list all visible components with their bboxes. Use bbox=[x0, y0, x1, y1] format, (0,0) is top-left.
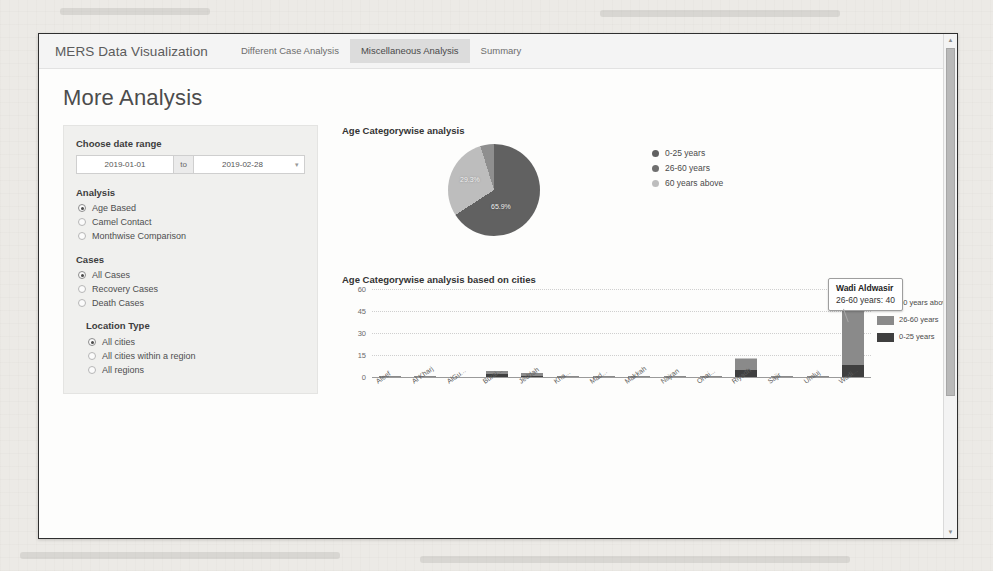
y-axis-tick: 30 bbox=[358, 329, 366, 338]
app-brand[interactable]: MERS Data Visualization bbox=[55, 44, 230, 59]
legend-label: 60 years above bbox=[665, 178, 723, 188]
pie-slice-label-0-25: 65.9% bbox=[491, 203, 511, 210]
radio-dot-icon[interactable] bbox=[78, 232, 86, 240]
page-title: More Analysis bbox=[63, 85, 957, 111]
pie-legend-item-60-above[interactable]: 60 years above bbox=[652, 178, 723, 188]
pie-graphic[interactable] bbox=[448, 144, 540, 236]
tooltip-title: Wadi Aldwasir bbox=[836, 283, 895, 293]
radio-age-based[interactable]: Age Based bbox=[78, 203, 305, 213]
radio-label: Camel Contact bbox=[92, 217, 152, 227]
legend-dot-icon bbox=[652, 180, 659, 187]
y-axis-tick: 45 bbox=[358, 307, 366, 316]
page-body: More Analysis Choose date range to ▾ Ana… bbox=[39, 69, 957, 537]
bar-chart: Age Categorywise analysis based on citie… bbox=[340, 274, 957, 406]
pie-legend-item-0-25[interactable]: 0-25 years bbox=[652, 148, 723, 158]
legend-swatch-icon bbox=[877, 316, 894, 325]
charts-column: Age Categorywise analysis 65.9% 29.3% 0-… bbox=[318, 125, 957, 406]
scroll-down-icon[interactable]: ▼ bbox=[944, 526, 957, 538]
content-row: Choose date range to ▾ Analysis Age Base… bbox=[61, 125, 957, 406]
radio-dot-icon[interactable] bbox=[88, 338, 96, 346]
radio-camel-contact[interactable]: Camel Contact bbox=[78, 217, 305, 227]
legend-label: 26-60 years bbox=[665, 163, 710, 173]
pie-chart-title: Age Categorywise analysis bbox=[342, 125, 957, 136]
radio-dot-icon[interactable] bbox=[88, 366, 96, 374]
navbar: MERS Data Visualization Different Case A… bbox=[39, 34, 957, 69]
radio-dot-icon[interactable] bbox=[78, 271, 86, 279]
radio-label: Death Cases bbox=[92, 298, 144, 308]
background-ghost-text bbox=[20, 552, 340, 559]
radio-label: All regions bbox=[102, 365, 144, 375]
controls-panel: Choose date range to ▾ Analysis Age Base… bbox=[63, 125, 318, 394]
location-type-label: Location Type bbox=[86, 320, 305, 331]
calendar-icon[interactable]: ▾ bbox=[290, 156, 304, 173]
tab-different-case-analysis[interactable]: Different Case Analysis bbox=[230, 39, 350, 63]
radio-all-cities-within-region[interactable]: All cities within a region bbox=[88, 351, 305, 361]
pie-legend: 0-25 years 26-60 years 60 years above bbox=[652, 148, 723, 193]
location-type-group: Location Type All cities All cities with… bbox=[86, 320, 305, 375]
bar-tooltip: Wadi Aldwasir 26-60 years: 40 bbox=[828, 278, 903, 311]
radio-label: Recovery Cases bbox=[92, 284, 158, 294]
analysis-group-label: Analysis bbox=[76, 187, 305, 198]
background-ghost-text bbox=[60, 8, 210, 15]
y-axis-tick: 60 bbox=[358, 285, 366, 294]
tab-miscellaneous-analysis[interactable]: Miscellaneous Analysis bbox=[350, 39, 470, 63]
pie-legend-item-26-60[interactable]: 26-60 years bbox=[652, 163, 723, 173]
scrollbar-track[interactable] bbox=[944, 46, 957, 526]
radio-dot-icon[interactable] bbox=[78, 299, 86, 307]
vertical-scrollbar[interactable]: ▲ ▼ bbox=[943, 34, 957, 538]
y-axis-tick: 15 bbox=[358, 351, 366, 360]
tooltip-value: 26-60 years: 40 bbox=[836, 295, 895, 305]
pie-chart: 65.9% 29.3% 0-25 years 26-60 years bbox=[340, 140, 957, 260]
legend-dot-icon bbox=[652, 165, 659, 172]
pie-graphic-wrap: 65.9% 29.3% bbox=[448, 144, 540, 236]
date-range-label: Choose date range bbox=[76, 138, 305, 149]
legend-label: 0-25 years bbox=[899, 332, 934, 341]
legend-swatch-icon bbox=[877, 333, 894, 342]
date-range-start-input[interactable] bbox=[77, 156, 173, 173]
date-range-separator: to bbox=[173, 156, 194, 173]
pie-slice-label-26-60: 29.3% bbox=[460, 176, 480, 183]
scroll-up-icon[interactable]: ▲ bbox=[944, 34, 957, 46]
background-ghost-text bbox=[600, 10, 840, 17]
radio-all-cities[interactable]: All cities bbox=[88, 337, 305, 347]
radio-label: Monthwise Comparison bbox=[92, 231, 186, 241]
tab-summary[interactable]: Summary bbox=[470, 39, 533, 63]
radio-label: All Cases bbox=[92, 270, 130, 280]
legend-dot-icon bbox=[652, 150, 659, 157]
radio-all-regions[interactable]: All regions bbox=[88, 365, 305, 375]
scrollbar-thumb[interactable] bbox=[946, 48, 955, 396]
radio-dot-icon[interactable] bbox=[88, 352, 96, 360]
legend-label: 0-25 years bbox=[665, 148, 705, 158]
radio-label: Age Based bbox=[92, 203, 136, 213]
x-axis-labels: AfeefAl KharjAlGu...Burai...JeddahKha...… bbox=[372, 378, 871, 406]
cases-group-label: Cases bbox=[76, 254, 305, 265]
radio-monthwise-comparison[interactable]: Monthwise Comparison bbox=[78, 231, 305, 241]
y-axis-tick: 0 bbox=[362, 373, 366, 382]
radio-dot-icon[interactable] bbox=[78, 218, 86, 226]
radio-dot-icon[interactable] bbox=[78, 285, 86, 293]
date-range-input-group[interactable]: to ▾ bbox=[76, 155, 305, 174]
radio-label: All cities within a region bbox=[102, 351, 196, 361]
radio-recovery-cases[interactable]: Recovery Cases bbox=[78, 284, 305, 294]
date-range-end-input[interactable] bbox=[194, 156, 290, 173]
radio-death-cases[interactable]: Death Cases bbox=[78, 298, 305, 308]
app-window: MERS Data Visualization Different Case A… bbox=[38, 33, 958, 539]
radio-label: All cities bbox=[102, 337, 135, 347]
radio-all-cases[interactable]: All Cases bbox=[78, 270, 305, 280]
legend-label: 26-60 years bbox=[899, 315, 939, 324]
radio-dot-icon[interactable] bbox=[78, 204, 86, 212]
background-ghost-text bbox=[420, 556, 850, 563]
